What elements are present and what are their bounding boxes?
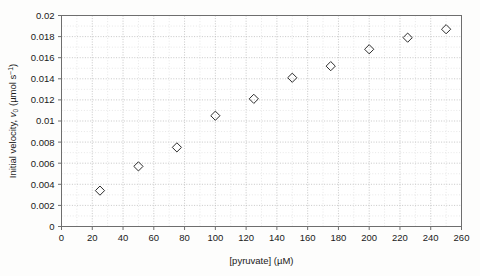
y-tick-label: 0.002	[31, 200, 55, 211]
y-tick-label: 0.02	[36, 10, 55, 21]
x-tick-label: 260	[454, 232, 470, 243]
x-tick-label: 100	[207, 232, 223, 243]
x-tick-label: 20	[87, 232, 98, 243]
x-tick-label: 160	[300, 232, 316, 243]
y-tick-label: 0.014	[31, 73, 55, 84]
x-tick-label: 80	[179, 232, 190, 243]
y-tick-label: 0.01	[36, 115, 55, 126]
x-tick-label: 120	[238, 232, 254, 243]
y-axis-title: Initial velocity, v0 (µmol s−1)	[7, 64, 19, 179]
x-tick-label: 40	[118, 232, 129, 243]
y-tick-label: 0.018	[31, 31, 55, 42]
x-tick-label: 200	[361, 232, 377, 243]
y-tick-label: 0.012	[31, 94, 55, 105]
x-tick-label: 60	[149, 232, 160, 243]
y-tick-label: 0.004	[31, 179, 55, 190]
chart-figure: 020406080100120140160180200220240260 00.…	[0, 0, 480, 276]
x-tick-label: 220	[392, 232, 408, 243]
y-tick-label: 0.008	[31, 137, 55, 148]
scatter-plot: 020406080100120140160180200220240260 00.…	[0, 0, 480, 276]
y-tick-label: 0.006	[31, 158, 55, 169]
x-tick-label: 0	[59, 232, 64, 243]
x-axis-title: [pyruvate] (µM)	[229, 255, 293, 266]
y-tick-label: 0	[49, 221, 54, 232]
y-tick-label: 0.016	[31, 52, 55, 63]
x-tick-label: 140	[269, 232, 285, 243]
x-tick-label: 180	[330, 232, 346, 243]
x-tick-label: 240	[423, 232, 439, 243]
